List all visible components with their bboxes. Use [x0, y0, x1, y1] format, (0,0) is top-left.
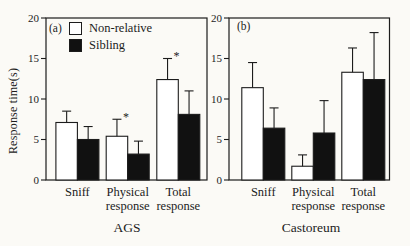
x-category-label: Sniff — [65, 185, 91, 199]
legend-item-non-relative: Non-relative — [69, 21, 152, 36]
bar-Sibling-Sniff — [263, 128, 285, 180]
significance-asterisk: * — [174, 49, 180, 63]
x-category-label: Sniff — [251, 185, 277, 199]
y-tick-label: 10 — [28, 93, 40, 105]
bar-Sibling-Total response — [178, 114, 200, 180]
x-category-label: Physical — [107, 185, 150, 199]
x-category-label: response — [291, 199, 335, 213]
bar-Non-relative-Sniff — [56, 122, 78, 180]
x-category-label: response — [341, 199, 385, 213]
panel-b-title: Castoreum — [282, 220, 341, 236]
bar-Sibling-Total response — [363, 80, 385, 180]
y-tick-label: 5 — [34, 133, 40, 145]
legend-label-non-relative: Non-relative — [89, 21, 152, 36]
panel-a-letter: (a) — [49, 22, 62, 34]
legend-label-sibling: Sibling — [89, 38, 125, 53]
y-tick-label: 15 — [28, 52, 40, 64]
y-tick-label: 20 — [211, 12, 223, 24]
legend-swatch-non-relative — [69, 22, 82, 35]
y-tick-label: 0 — [34, 174, 40, 186]
x-category-label: Physical — [292, 185, 335, 199]
panel-a-title: AGS — [113, 220, 140, 236]
bar-Sibling-Physical response — [128, 154, 150, 180]
x-category-label: Total — [166, 185, 192, 199]
bar-Non-relative-Total response — [342, 72, 364, 180]
two-panel-bar-figure: 05101520Sniff*Physicalresponse*Totalresp… — [0, 0, 410, 246]
x-category-label: response — [106, 199, 150, 213]
y-axis-title: Response time(s) — [6, 68, 21, 154]
bar-Non-relative-Sniff — [242, 88, 263, 180]
bar-Non-relative-Physical response — [106, 136, 128, 180]
legend-item-sibling: Sibling — [69, 38, 152, 53]
y-tick-label: 15 — [211, 52, 223, 64]
y-tick-label: 20 — [28, 12, 40, 24]
x-category-label: Total — [351, 185, 377, 199]
legend: Non-relative Sibling — [69, 21, 152, 55]
bar-Non-relative-Physical response — [292, 166, 314, 180]
bar-Sibling-Physical response — [313, 133, 335, 180]
bar-Sibling-Sniff — [77, 140, 99, 181]
y-tick-label: 0 — [217, 174, 223, 186]
y-tick-label: 10 — [211, 93, 223, 105]
bar-Non-relative-Total response — [157, 80, 179, 180]
y-tick-label: 5 — [217, 133, 223, 145]
significance-asterisk: * — [123, 110, 129, 124]
panel-b-letter: (b) — [237, 20, 250, 32]
bar-chart-canvas: 05101520Sniff*Physicalresponse*Totalresp… — [0, 0, 410, 246]
x-category-label: response — [156, 199, 200, 213]
legend-swatch-sibling — [69, 39, 82, 52]
